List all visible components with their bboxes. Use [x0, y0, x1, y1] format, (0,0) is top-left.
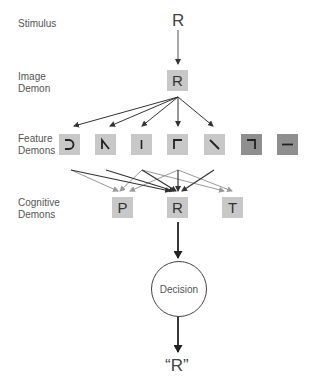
stimulus-letter: R: [172, 11, 184, 31]
corner-top-right-icon: [241, 134, 262, 155]
feature-demon-vertical: [131, 134, 152, 155]
feature-demon-horizontal: [277, 134, 298, 155]
image-demon-letter: R: [172, 72, 183, 89]
output-response: “R”: [165, 356, 189, 376]
cognitive-demon-t: T: [222, 197, 243, 218]
decision-label: Decision: [160, 284, 198, 295]
cognitive-demon-p: P: [112, 197, 133, 218]
feature-demon-diagonal: [95, 134, 116, 155]
feature-demon-backslash: [204, 134, 225, 155]
curve-right-icon: [59, 134, 80, 155]
cognitive-demon-r: R: [167, 197, 188, 218]
vertical-line-icon: [131, 134, 152, 155]
corner-top-left-icon: [167, 134, 188, 155]
horizontal-line-icon: [277, 134, 298, 155]
image-demon-box: R: [167, 70, 188, 91]
cognitive-demon-letter: P: [117, 199, 127, 216]
feature-demon-corner-right: [241, 134, 262, 155]
cognitive-demon-letter: R: [172, 199, 183, 216]
feature-demon-curve: [59, 134, 80, 155]
feature-demon-corner-left: [167, 134, 188, 155]
diagonal-left-icon: [95, 134, 116, 155]
decision-circle: Decision: [151, 261, 207, 317]
cognitive-demon-letter: T: [228, 199, 237, 216]
connection-arrows: [0, 0, 316, 386]
backslash-icon: [204, 134, 225, 155]
